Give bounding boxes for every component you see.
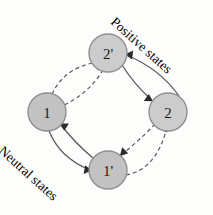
node-label-one: 1: [43, 105, 51, 121]
edge-two-to-one-prime: [121, 124, 155, 155]
node-label-two-prime: 2': [103, 46, 114, 62]
edge-one-prime-to-two: [126, 131, 166, 175]
node-label-one-prime: 1': [103, 163, 114, 179]
edge-two-prime-to-two: [122, 65, 152, 100]
edge-two-prime-to-one: [52, 63, 93, 96]
arrowhead-two-prime-to-two: [144, 94, 153, 101]
edge-one-prime-to-one: [61, 125, 93, 158]
arrowhead-two-to-one-prime: [120, 147, 128, 156]
state-transition-diagram: 2' 1 2 1' Positive states Neutral states: [0, 0, 213, 215]
node-label-two: 2: [164, 105, 172, 121]
edge-one-to-two-prime: [65, 70, 104, 105]
